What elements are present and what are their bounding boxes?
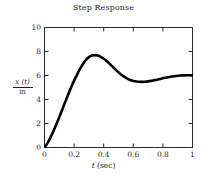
xtick-label: 0.4	[98, 151, 110, 159]
ytick-label: 10	[27, 24, 41, 32]
chart-title: Step Response	[0, 3, 207, 13]
xtick-label: 0	[42, 151, 47, 159]
ytick-label: 8	[27, 48, 41, 56]
ytick-label: 4	[27, 96, 41, 104]
plot-frame	[45, 28, 193, 148]
xaxis-var-t: t	[92, 161, 95, 170]
xtick-label: 0.8	[157, 151, 169, 159]
xtick-label: 0.6	[127, 151, 139, 159]
plot-area: 0246810 00.20.40.60.81	[44, 27, 193, 148]
plot-svg	[44, 27, 193, 148]
yaxis-arg-t: (t)	[21, 78, 29, 86]
ytick-label: 0	[27, 144, 41, 152]
xtick-label: 0.2	[68, 151, 80, 159]
xaxis-unit: (sec)	[97, 161, 115, 170]
yaxis-label-numerator: x (t)	[9, 78, 36, 87]
yaxis-label: x (t) in	[9, 78, 36, 96]
yaxis-label-denominator: in	[9, 88, 36, 97]
xtick-label: 1	[190, 151, 195, 159]
ytick-label: 2	[27, 120, 41, 128]
yaxis-var-x: x	[15, 78, 19, 86]
xaxis-label: t (sec)	[0, 161, 207, 170]
